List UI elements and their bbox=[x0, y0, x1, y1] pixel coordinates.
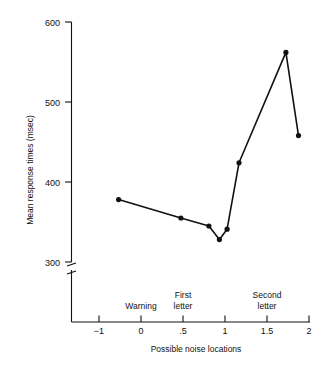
annotation-second-letter-line1: Second bbox=[253, 290, 282, 300]
x-axis-title: Possible noise locations bbox=[151, 344, 242, 354]
line-chart-svg: 600 500 400 300 Mean response times (mse… bbox=[0, 0, 331, 368]
data-point bbox=[236, 160, 241, 165]
y-tick-label-300: 300 bbox=[45, 258, 60, 268]
x-tick-label-0: 0 bbox=[138, 326, 143, 336]
data-point bbox=[283, 50, 288, 55]
x-tick-label-1half: 1.5 bbox=[261, 326, 274, 336]
data-point bbox=[116, 197, 121, 202]
annotation-second-letter-line2: letter bbox=[258, 301, 277, 311]
data-line-0 bbox=[119, 52, 299, 239]
y-axis: 600 500 400 300 Mean response times (mse… bbox=[25, 18, 76, 323]
y-tick-label-400: 400 bbox=[45, 178, 60, 188]
x-tick-label-half: .5 bbox=[179, 326, 187, 336]
y-axis-title: Mean response times (msec) bbox=[25, 115, 35, 225]
annotation-warning: Warning bbox=[125, 301, 157, 311]
data-point bbox=[217, 237, 222, 242]
annotation-first-letter-line1: First bbox=[175, 290, 192, 300]
x-tick-label-neg1: −1 bbox=[94, 326, 104, 336]
data-point bbox=[178, 215, 183, 220]
plot-annotations: Warning First letter Second letter bbox=[125, 290, 281, 311]
annotation-first-letter-line2: letter bbox=[174, 301, 193, 311]
x-axis: −1 0 .5 1 1.5 2 Possible noise locations bbox=[72, 316, 312, 355]
y-tick-label-500: 500 bbox=[45, 98, 60, 108]
data-point bbox=[206, 223, 211, 228]
y-tick-label-600: 600 bbox=[45, 18, 60, 28]
data-series-group bbox=[116, 50, 301, 242]
x-tick-label-1: 1 bbox=[222, 326, 227, 336]
data-point bbox=[225, 227, 230, 232]
data-point bbox=[296, 133, 301, 138]
chart-figure: 600 500 400 300 Mean response times (mse… bbox=[0, 0, 331, 368]
x-tick-label-2: 2 bbox=[306, 326, 311, 336]
axis-break-mark-upper bbox=[67, 263, 76, 266]
